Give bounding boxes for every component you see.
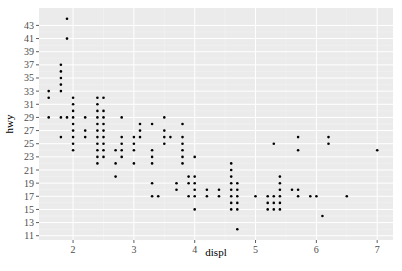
data-point <box>297 195 300 198</box>
data-point <box>139 129 142 132</box>
data-point <box>266 202 269 205</box>
data-point <box>72 96 75 99</box>
data-point <box>279 188 282 191</box>
data-point <box>120 136 123 139</box>
data-point <box>181 162 184 165</box>
data-point <box>175 182 178 185</box>
data-point <box>163 129 166 132</box>
data-point <box>187 182 190 185</box>
data-point <box>230 169 233 172</box>
y-tick-label: 27 <box>24 125 34 136</box>
y-tick-label: 35 <box>24 72 34 83</box>
data-point <box>47 96 50 99</box>
x-axis-title: displ <box>205 246 226 258</box>
data-point <box>327 136 330 139</box>
data-point <box>102 142 105 145</box>
data-point <box>193 175 196 178</box>
y-tick-label: 23 <box>24 151 34 162</box>
data-point <box>175 188 178 191</box>
data-point <box>96 162 99 165</box>
data-point <box>120 142 123 145</box>
data-point <box>230 188 233 191</box>
data-point <box>139 136 142 139</box>
data-point <box>102 129 105 132</box>
data-point <box>114 149 117 152</box>
data-point <box>187 195 190 198</box>
data-point <box>102 149 105 152</box>
data-point <box>169 136 172 139</box>
data-point <box>273 202 276 205</box>
data-point <box>181 123 184 126</box>
x-tick-label: 7 <box>375 244 380 255</box>
data-point <box>114 175 117 178</box>
y-tick-label: 25 <box>24 138 34 149</box>
y-tick-label: 13 <box>24 217 34 228</box>
data-point <box>193 188 196 191</box>
y-axis-title: hwy <box>3 114 15 133</box>
y-axis: 1113151719212325272931333537394143 <box>24 20 39 241</box>
data-point <box>96 116 99 119</box>
data-point <box>315 195 318 198</box>
data-point <box>60 83 63 86</box>
data-point <box>181 136 184 139</box>
data-point <box>230 162 233 165</box>
data-point <box>47 116 50 119</box>
data-point <box>163 136 166 139</box>
data-point <box>321 215 324 218</box>
data-point <box>133 142 136 145</box>
y-tick-label: 19 <box>24 178 34 189</box>
data-point <box>120 156 123 159</box>
data-point <box>60 70 63 73</box>
data-point <box>84 136 87 139</box>
data-point <box>279 175 282 178</box>
data-point <box>279 195 282 198</box>
data-point <box>291 188 294 191</box>
data-point <box>254 195 257 198</box>
y-tick-label: 21 <box>24 165 34 176</box>
data-point <box>163 142 166 145</box>
x-tick-label: 3 <box>131 244 136 255</box>
y-tick-label: 15 <box>24 204 34 215</box>
data-point <box>297 136 300 139</box>
y-tick-label: 41 <box>24 33 34 44</box>
data-point <box>236 188 239 191</box>
data-point <box>151 182 154 185</box>
data-point <box>151 156 154 159</box>
data-point <box>139 123 142 126</box>
data-point <box>206 195 209 198</box>
data-point <box>236 202 239 205</box>
data-point <box>279 202 282 205</box>
data-point <box>72 110 75 113</box>
data-point <box>346 195 349 198</box>
data-point <box>279 208 282 211</box>
data-point <box>102 116 105 119</box>
data-point <box>193 208 196 211</box>
data-point <box>230 175 233 178</box>
data-point <box>84 129 87 132</box>
data-point <box>96 123 99 126</box>
data-point <box>157 195 160 198</box>
data-point <box>72 142 75 145</box>
data-point <box>236 182 239 185</box>
data-point <box>193 156 196 159</box>
data-point <box>181 156 184 159</box>
data-point <box>230 208 233 211</box>
data-point <box>133 136 136 139</box>
data-point <box>96 129 99 132</box>
data-point <box>96 96 99 99</box>
data-point <box>60 90 63 93</box>
data-point <box>151 162 154 165</box>
y-tick-label: 29 <box>24 112 34 123</box>
data-point <box>151 149 154 152</box>
data-point <box>66 18 69 21</box>
data-point <box>181 142 184 145</box>
data-point <box>230 182 233 185</box>
data-point <box>218 195 221 198</box>
data-point <box>102 136 105 139</box>
data-point <box>72 116 75 119</box>
data-point <box>309 195 312 198</box>
y-tick-label: 31 <box>24 99 34 110</box>
data-point <box>187 175 190 178</box>
data-point <box>230 195 233 198</box>
data-point <box>120 116 123 119</box>
